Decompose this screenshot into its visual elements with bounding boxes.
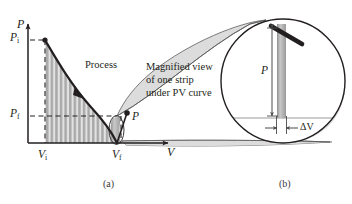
curve-point-label: P [132, 110, 139, 123]
callout-line-1: Magnified view [146, 61, 213, 73]
magnified-strip [277, 24, 286, 118]
x-tick-v-i-sub: i [45, 153, 47, 162]
y-tick-p-i-sub: i [17, 36, 19, 45]
callout-line-2: of one strip [146, 74, 194, 86]
magnifier-contents [219, 16, 349, 146]
delta-v-label: ΔV [300, 121, 314, 132]
caption-a: (a) [103, 178, 114, 189]
y-axis-label: P [17, 18, 24, 31]
y-tick-p-i-base: P [10, 31, 17, 43]
x-tick-v-i-base: V [38, 148, 45, 160]
caption-b: (b) [279, 178, 291, 189]
y-tick-p-f-base: P [10, 107, 17, 119]
x-tick-v-i: Vi [38, 148, 47, 162]
x-tick-v-f: Vf [112, 148, 122, 162]
y-tick-p-f-sub: f [17, 112, 20, 121]
magnified-pressure-label: P [261, 64, 268, 77]
pv-diagram-figure: P V Pi Pf Vi Vf Process P (a) Magnified … [0, 0, 352, 204]
x-axis-label: V [167, 146, 174, 159]
process-label: Process [85, 59, 117, 71]
callout-line-3: under PV curve [146, 87, 212, 99]
x-tick-v-f-sub: f [119, 153, 122, 162]
y-tick-p-f: Pf [10, 107, 20, 121]
pv-shaded-area [45, 40, 117, 143]
x-tick-v-f-base: V [112, 148, 119, 160]
diagram-canvas [0, 0, 352, 204]
y-tick-p-i: Pi [10, 31, 19, 45]
callout-pv-token: PV [173, 87, 186, 98]
